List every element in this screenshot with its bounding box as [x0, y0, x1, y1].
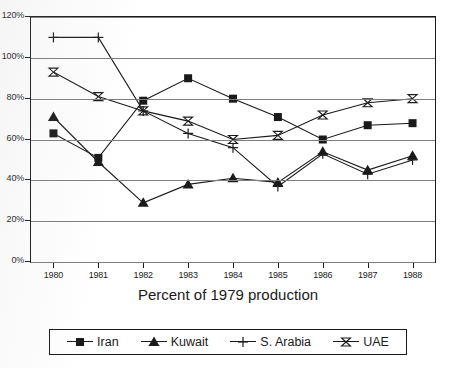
- plot-area: [30, 16, 436, 263]
- y-axis-tick-label: 60%: [0, 133, 24, 143]
- legend-entry-iran[interactable]: Iran: [67, 335, 119, 349]
- x-axis-tick-label: 1983: [168, 270, 208, 280]
- plus-marker: [183, 128, 193, 138]
- series-line: [53, 72, 412, 139]
- filled-square-marker: [139, 97, 147, 105]
- series-line: [53, 117, 412, 203]
- gridline: [31, 221, 435, 222]
- x-axis-tick-label: 1981: [78, 270, 118, 280]
- plus-marker: [93, 32, 103, 42]
- x-axis-tick-label: 1984: [213, 270, 253, 280]
- x-axis-tick-mark: [413, 263, 414, 268]
- x-axis-tick-label: 1982: [123, 270, 163, 280]
- y-axis-tick-label: 40%: [0, 173, 24, 183]
- filled-triangle-marker: [148, 337, 159, 347]
- filled-square-icon: [67, 336, 93, 348]
- legend-label: UAE: [363, 335, 389, 349]
- y-axis-tick-label: 120%: [0, 10, 24, 20]
- x-axis-tick-label: 1988: [393, 270, 433, 280]
- filled-square-marker: [364, 121, 372, 129]
- series-kuwait: [48, 112, 418, 207]
- legend-entry-s-arabia[interactable]: S. Arabia: [230, 335, 311, 349]
- legend-entry-kuwait[interactable]: Kuwait: [141, 335, 209, 349]
- legend-label: S. Arabia: [260, 335, 311, 349]
- legend-label: Kuwait: [171, 335, 209, 349]
- filled-triangle-marker: [48, 112, 59, 122]
- filled-square-marker: [76, 338, 84, 346]
- plus-marker: [48, 32, 58, 42]
- plus-icon: [230, 336, 256, 348]
- gridline: [31, 140, 435, 141]
- x-axis-tick-mark: [53, 263, 54, 268]
- x-axis-tick-mark: [188, 263, 189, 268]
- x-axis-tick-label: 1985: [258, 270, 298, 280]
- x-axis-tick-mark: [143, 263, 144, 268]
- bowtie-marker: [342, 338, 351, 346]
- chart-legend: IranKuwaitS. ArabiaUAE: [49, 329, 407, 355]
- y-axis-tick-label: 100%: [0, 51, 24, 61]
- y-axis-tick-label: 20%: [0, 214, 24, 224]
- x-axis-tick-label: 1980: [33, 270, 73, 280]
- series-uae: [49, 68, 417, 143]
- bowtie-icon: [333, 336, 359, 348]
- bowtie-marker: [49, 68, 58, 76]
- x-axis-tick-mark: [98, 263, 99, 268]
- x-axis-tick-label: 1987: [348, 270, 388, 280]
- filled-square-marker: [409, 119, 417, 127]
- y-axis-tick-label: 80%: [0, 92, 24, 102]
- filled-triangle-icon: [141, 336, 167, 348]
- gridline: [31, 99, 435, 100]
- x-axis-tick-label: 1986: [303, 270, 343, 280]
- legend-label: Iran: [97, 335, 119, 349]
- gridline: [31, 180, 435, 181]
- series-line: [53, 37, 412, 186]
- x-axis-tick-mark: [368, 263, 369, 268]
- filled-square-marker: [49, 129, 57, 137]
- gridline: [31, 58, 435, 59]
- legend-entry-uae[interactable]: UAE: [333, 335, 389, 349]
- y-axis-tick-label: 0%: [0, 255, 24, 265]
- x-axis-tick-mark: [278, 263, 279, 268]
- filled-square-marker: [184, 74, 192, 82]
- plus-marker: [318, 149, 328, 159]
- x-axis-title: Percent of 1979 production: [0, 286, 456, 303]
- filled-square-marker: [274, 113, 282, 121]
- bowtie-marker: [318, 111, 327, 119]
- gridline: [31, 17, 435, 18]
- line-chart: 0%20%40%60%80%100%120% 19801981198219831…: [0, 0, 456, 368]
- x-axis-tick-mark: [323, 263, 324, 268]
- plus-marker: [238, 337, 248, 347]
- bowtie-marker: [184, 117, 193, 125]
- x-axis-tick-mark: [233, 263, 234, 268]
